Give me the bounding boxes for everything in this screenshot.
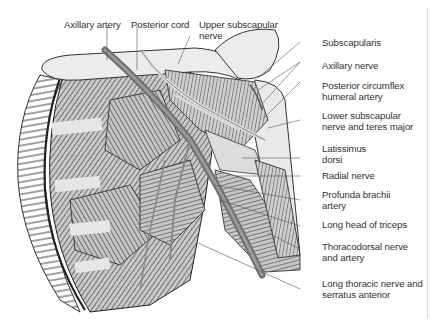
label-line: Upper subscapular <box>199 19 278 30</box>
label-line: Thoracodorsal nerve <box>322 241 408 252</box>
label-long-thoracic-nerve: Long thoracic nerve and serratus anterio… <box>322 278 423 300</box>
label-axillary-nerve: Axillary nerve <box>322 60 378 71</box>
label-line: and artery <box>322 252 408 263</box>
label-subscapularis: Subscapularis <box>322 37 381 48</box>
label-line: Latissimus <box>322 143 366 154</box>
label-long-head-triceps: Long head of triceps <box>322 219 407 230</box>
label-thoracodorsal-nerve-artery: Thoracodorsal nerve and artery <box>322 241 408 263</box>
label-line: nerve <box>199 30 278 41</box>
label-line: nerve and teres major <box>322 121 413 132</box>
label-lower-subscapular-nerve: Lower subscapular nerve and teres major <box>322 110 413 132</box>
label-upper-subscapular-nerve: Upper subscapular nerve <box>199 19 278 41</box>
label-latissimus-dorsi: Latissimus dorsi <box>322 143 366 165</box>
label-line: Long thoracic nerve and <box>322 278 423 289</box>
label-posterior-circumflex-humeral-artery: Posterior circumflex humeral artery <box>322 80 404 102</box>
label-line: Posterior circumflex <box>322 80 404 91</box>
label-line: humeral artery <box>322 91 404 102</box>
anatomy-illustration <box>0 0 433 325</box>
label-line: artery <box>322 200 390 211</box>
label-posterior-cord: Posterior cord <box>131 19 189 30</box>
label-axillary-artery: Axillary artery <box>64 19 121 30</box>
page-divider <box>427 8 428 318</box>
label-radial-nerve: Radial nerve <box>322 170 375 181</box>
label-line: dorsi <box>322 154 366 165</box>
label-line: serratus anterior <box>322 289 423 300</box>
label-profunda-brachii-artery: Profunda brachii artery <box>322 189 390 211</box>
label-line: Profunda brachii <box>322 189 390 200</box>
label-line: Lower subscapular <box>322 110 413 121</box>
anatomy-figure: Axillary artery Posterior cord Upper sub… <box>0 0 433 325</box>
